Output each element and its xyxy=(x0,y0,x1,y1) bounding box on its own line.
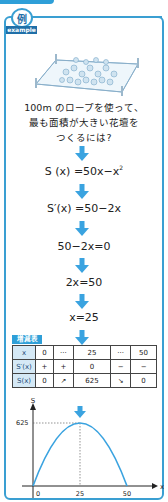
question-text: 100m のロープを使って、 最も面積が大きい花壇を つくるには? xyxy=(4,100,164,145)
x-tick-50: 50 xyxy=(123,490,131,498)
y-tick-625: 625 xyxy=(16,419,28,427)
y-axis-label: S xyxy=(31,398,36,405)
down-arrow-icon xyxy=(75,258,89,273)
top-strip xyxy=(0,0,54,4)
parabola-graph: S x 625 0 25 50 xyxy=(8,398,164,502)
table-row: x 0 ··· 25 ··· 50 xyxy=(13,346,157,360)
flower-bed-illustration xyxy=(26,40,144,98)
example-badge: 例 xyxy=(11,8,33,28)
table-row: S′(x) + + 0 − − xyxy=(13,360,157,374)
down-arrow-icon xyxy=(75,294,89,309)
equation-x: x=25 xyxy=(4,311,164,324)
down-arrow-icon xyxy=(75,146,89,161)
down-arrow-icon xyxy=(75,221,89,236)
down-arrow-icon xyxy=(75,330,89,345)
example-tag: example xyxy=(6,26,37,34)
equation-set-zero: 50−2x=0 xyxy=(4,240,164,253)
x-tick-0: 0 xyxy=(36,490,40,498)
increase-decrease-table: x 0 ··· 25 ··· 50 S′(x) + + 0 − − S(x) 0… xyxy=(12,345,157,388)
badge-line xyxy=(32,16,162,18)
equation-derivative: S′(x) =50−2x xyxy=(4,202,164,215)
down-arrow-icon xyxy=(75,184,89,199)
x-tick-25: 25 xyxy=(76,490,84,498)
table-row: S(x) 0 ↗ 625 ↘ 0 xyxy=(13,374,157,388)
equation-2x: 2x=50 xyxy=(4,276,164,289)
table-label: 増減表 xyxy=(12,335,42,344)
equation-area: S (x) =50x−x2 xyxy=(4,164,164,178)
x-axis-label: x xyxy=(160,483,164,491)
